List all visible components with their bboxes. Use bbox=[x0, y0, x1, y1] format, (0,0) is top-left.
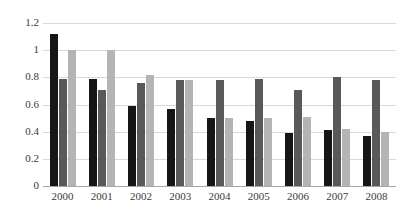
y-tick-label: 0.8 bbox=[3, 71, 39, 82]
bar-group bbox=[324, 23, 350, 186]
bar bbox=[333, 77, 341, 186]
bar bbox=[98, 90, 106, 186]
x-tick-label: 2005 bbox=[239, 189, 278, 203]
x-axis-tick-labels: 200020012002200320042005200620072008 bbox=[43, 189, 396, 207]
bar bbox=[207, 118, 215, 186]
bar-group bbox=[207, 23, 233, 186]
bar-group bbox=[363, 23, 389, 186]
bar bbox=[137, 83, 145, 186]
bar-chart: 00.20.40.60.811.2 2000200120022003200420… bbox=[0, 0, 413, 222]
y-tick-label: 0.6 bbox=[3, 99, 39, 110]
plot-area bbox=[43, 23, 396, 186]
bar bbox=[285, 133, 293, 186]
bar bbox=[167, 109, 175, 186]
x-tick-label: 2007 bbox=[318, 189, 357, 203]
bar bbox=[363, 136, 371, 186]
y-tick-label: 0.2 bbox=[3, 153, 39, 164]
bar bbox=[68, 50, 76, 186]
bar bbox=[225, 118, 233, 186]
bar bbox=[59, 79, 67, 186]
x-tick-label: 2003 bbox=[161, 189, 200, 203]
x-tick-label: 2004 bbox=[200, 189, 239, 203]
bar-group bbox=[167, 23, 193, 186]
x-tick-label: 2006 bbox=[278, 189, 317, 203]
bar bbox=[342, 129, 350, 186]
bar-group bbox=[89, 23, 115, 186]
x-tick-label: 2001 bbox=[82, 189, 121, 203]
x-tick-label: 2002 bbox=[121, 189, 160, 203]
bar bbox=[185, 80, 193, 186]
bar bbox=[372, 80, 380, 186]
bar-group bbox=[285, 23, 311, 186]
x-tick-label: 2008 bbox=[357, 189, 396, 203]
bar bbox=[216, 80, 224, 186]
bar-group bbox=[246, 23, 272, 186]
bar bbox=[324, 130, 332, 186]
bar bbox=[246, 121, 254, 186]
axis-baseline bbox=[43, 186, 396, 187]
bar bbox=[50, 34, 58, 186]
bar bbox=[303, 117, 311, 186]
bar bbox=[264, 118, 272, 186]
bar bbox=[128, 106, 136, 186]
y-tick-label: 1.2 bbox=[3, 17, 39, 28]
y-tick-label: 0 bbox=[3, 180, 39, 191]
bars-layer bbox=[43, 23, 396, 186]
bar-group bbox=[128, 23, 154, 186]
bar bbox=[255, 79, 263, 186]
y-tick-label: 1 bbox=[3, 44, 39, 55]
bar bbox=[176, 80, 184, 186]
y-axis-tick-labels: 00.20.40.60.811.2 bbox=[0, 23, 39, 186]
y-tick-label: 0.4 bbox=[3, 126, 39, 137]
bar bbox=[294, 90, 302, 186]
bar bbox=[146, 75, 154, 186]
bar-group bbox=[50, 23, 76, 186]
bar bbox=[381, 132, 389, 186]
bar bbox=[89, 79, 97, 186]
bar bbox=[107, 50, 115, 186]
x-tick-label: 2000 bbox=[43, 189, 82, 203]
